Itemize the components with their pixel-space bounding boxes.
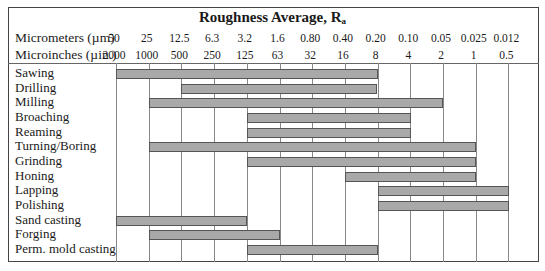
micrometer-tick: 6.3: [205, 32, 219, 44]
micrometer-tick: 0.025: [461, 32, 487, 44]
micrometer-tick: 0.40: [333, 32, 353, 44]
grid-line: [508, 63, 509, 262]
range-bar: [247, 113, 411, 123]
microinches-axis-label: Microinches (µin.): [15, 47, 117, 63]
range-bar: [247, 245, 378, 255]
process-label: Perm. mold casting: [15, 242, 116, 256]
range-bar: [116, 216, 247, 226]
microinch-tick: 500: [171, 49, 188, 61]
process-label: Forging: [15, 227, 56, 241]
microinch-tick: 2000: [103, 49, 126, 61]
microinch-tick: 1000: [135, 49, 158, 61]
microinch-tick: 125: [236, 49, 253, 61]
chart-title: Roughness Average, Ra: [0, 9, 545, 26]
process-label: Lapping: [15, 183, 58, 197]
process-label: Reaming: [15, 125, 62, 139]
micrometer-tick: 12.5: [169, 32, 189, 44]
micrometer-tick: 0.80: [300, 32, 320, 44]
microinch-tick: 4: [405, 49, 411, 61]
process-label: Drilling: [15, 81, 56, 95]
microinch-tick: 0.5: [499, 49, 513, 61]
range-bar: [378, 186, 509, 196]
micrometers-axis-label: Micrometers (µm): [15, 30, 115, 46]
process-label: Turning/Boring: [15, 139, 96, 153]
range-bar: [378, 201, 509, 211]
microinch-tick: 32: [304, 49, 316, 61]
range-bar: [247, 157, 476, 167]
process-label: Polishing: [15, 198, 64, 212]
micrometer-tick: 3.2: [238, 32, 252, 44]
range-bar: [345, 172, 476, 182]
micrometer-tick: 0.20: [366, 32, 386, 44]
process-label: Grinding: [15, 154, 62, 168]
micrometer-tick: 0.012: [493, 32, 519, 44]
process-label: Broaching: [15, 110, 69, 124]
range-bar: [181, 84, 377, 94]
range-bar: [149, 98, 443, 108]
range-bar: [149, 142, 476, 152]
microinch-tick: 2: [438, 49, 444, 61]
microinch-tick: 250: [203, 49, 220, 61]
microinch-tick: 16: [337, 49, 349, 61]
process-label: Honing: [15, 169, 54, 183]
micrometer-tick: 0.10: [398, 32, 418, 44]
process-label: Sand casting: [15, 213, 81, 227]
process-label: Milling: [15, 95, 54, 109]
microinch-tick: 1: [471, 49, 477, 61]
micrometer-tick: 50: [108, 32, 120, 44]
header-separator: [8, 63, 539, 64]
micrometer-tick: 25: [141, 32, 153, 44]
range-bar: [247, 128, 411, 138]
microinch-tick: 63: [272, 49, 284, 61]
micrometer-tick: 0.05: [431, 32, 451, 44]
microinch-tick: 8: [373, 49, 379, 61]
process-label: Sawing: [15, 66, 54, 80]
range-bar: [116, 69, 378, 79]
grid-line: [476, 63, 477, 262]
micrometer-tick: 1.6: [270, 32, 284, 44]
range-bar: [149, 230, 280, 240]
grid-line: [116, 63, 117, 262]
